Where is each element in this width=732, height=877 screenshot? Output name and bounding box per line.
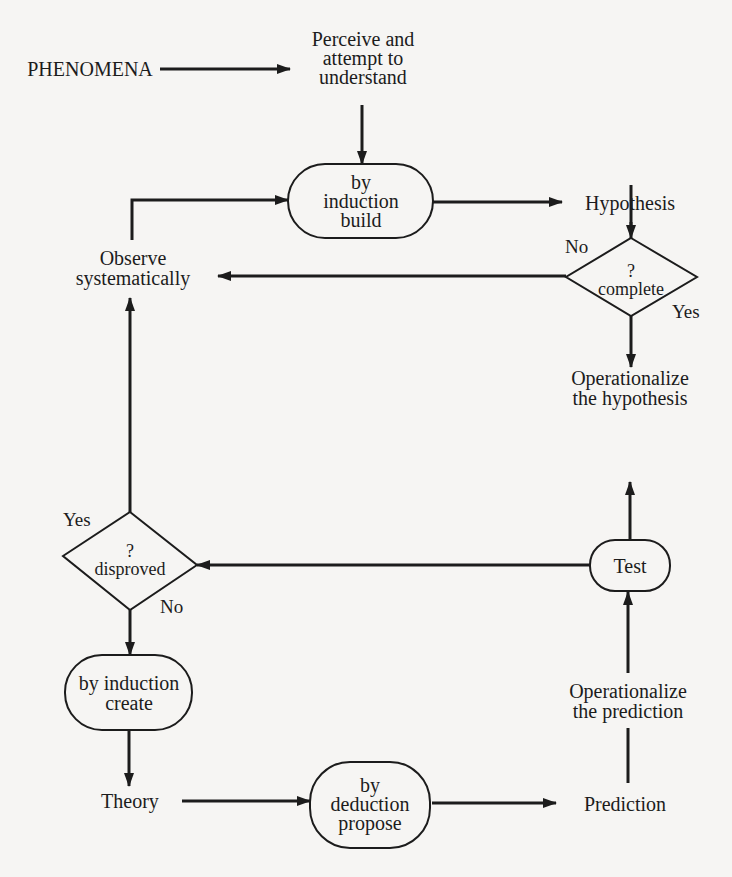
arrow-observe-to-build bbox=[132, 200, 288, 240]
node-op-prediction: Operationalize the prediction bbox=[569, 681, 687, 721]
node-observe: Observe systematically bbox=[76, 248, 190, 288]
node-op-prediction-line-1: Operationalize bbox=[569, 681, 687, 701]
node-complete: ? complete bbox=[598, 262, 664, 298]
node-induction-create-line-2: create bbox=[79, 693, 180, 713]
node-perceive-line-3: understand bbox=[312, 68, 415, 87]
node-hypothesis-label: Hypothesis bbox=[585, 193, 675, 213]
node-hypothesis: Hypothesis bbox=[585, 193, 675, 213]
node-phenomena-label: PHENOMENA bbox=[27, 59, 153, 79]
node-op-prediction-line-2: the prediction bbox=[569, 701, 687, 721]
node-test: Test bbox=[613, 556, 646, 576]
node-op-hypothesis: Operationalize the hypothesis bbox=[571, 368, 689, 408]
node-induction-build-line-3: build bbox=[323, 211, 399, 230]
node-induction-create-line-1: by induction bbox=[79, 673, 180, 693]
node-disproved-question: ? bbox=[95, 542, 166, 560]
node-op-hypothesis-line-2: the hypothesis bbox=[571, 388, 689, 408]
node-test-label: Test bbox=[613, 556, 646, 576]
node-deduction-propose: by deduction propose bbox=[331, 776, 410, 833]
node-op-hypothesis-line-1: Operationalize bbox=[571, 368, 689, 388]
node-deduction-propose-line-3: propose bbox=[331, 814, 410, 833]
node-complete-label: complete bbox=[598, 280, 664, 298]
node-observe-line-2: systematically bbox=[76, 268, 190, 288]
node-induction-create: by induction create bbox=[79, 673, 180, 713]
node-prediction: Prediction bbox=[584, 794, 666, 814]
node-prediction-label: Prediction bbox=[584, 794, 666, 814]
node-disproved: ? disproved bbox=[95, 542, 166, 578]
node-theory-label: Theory bbox=[101, 791, 159, 811]
edge-label-disproved-no: No bbox=[160, 597, 183, 616]
flowchart-canvas bbox=[0, 0, 732, 877]
node-theory: Theory bbox=[101, 791, 159, 811]
node-disproved-label: disproved bbox=[95, 560, 166, 578]
edge-label-complete-no: No bbox=[565, 237, 588, 256]
node-induction-build: by induction build bbox=[323, 173, 399, 230]
node-observe-line-1: Observe bbox=[76, 248, 190, 268]
node-perceive: Perceive and attempt to understand bbox=[312, 30, 415, 87]
node-complete-question: ? bbox=[598, 262, 664, 280]
edge-label-complete-yes: Yes bbox=[672, 302, 700, 321]
node-phenomena: PHENOMENA bbox=[27, 59, 153, 79]
edge-label-disproved-yes: Yes bbox=[63, 510, 91, 529]
